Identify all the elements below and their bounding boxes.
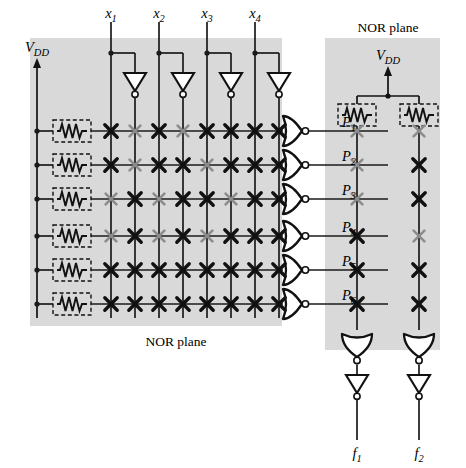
pla-schematic-canvas: x1x2x3x4P1P2P3P4P5P6f1f2VDDVDDNOR planeN… (0, 0, 466, 468)
nor-gate-icon (283, 116, 309, 146)
nor-gate-icon (283, 150, 309, 180)
output-label-f1: f1 (352, 445, 361, 464)
nor-gate-icon (283, 184, 309, 214)
inverter-gate-icon (346, 375, 368, 399)
inverter-gate-icon (408, 375, 430, 399)
input-label-x1: x1 (104, 5, 117, 24)
input-label-x3: x3 (200, 5, 213, 24)
and-plane-background (30, 38, 282, 326)
input-label-x4: x4 (248, 5, 261, 24)
nor-gate-icon (404, 334, 434, 364)
nor-gate-icon (342, 334, 372, 364)
nor-gate-icon (283, 221, 309, 251)
and-plane-label: NOR plane (145, 334, 206, 349)
output-label-f2: f2 (414, 445, 423, 464)
nor-gate-icon (283, 255, 309, 285)
pla-diagram-figure: x1x2x3x4P1P2P3P4P5P6f1f2VDDVDDNOR planeN… (0, 0, 466, 468)
input-label-x2: x2 (152, 5, 165, 24)
nor-gate-icon (283, 289, 309, 319)
nor-plane-label: NOR plane (357, 20, 418, 35)
